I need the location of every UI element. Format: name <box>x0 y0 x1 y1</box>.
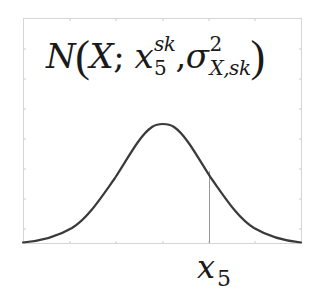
variable-symbol: X <box>89 36 113 76</box>
distribution-title: N(X; xsk5,σ2X,sk) <box>46 26 296 86</box>
open-paren: ( <box>75 32 89 81</box>
mean-superscript: sk <box>154 35 175 53</box>
sigma-superscript: 2 <box>210 35 251 53</box>
comma: , <box>175 36 185 76</box>
gaussian-curve <box>23 124 301 243</box>
close-paren: ) <box>251 32 265 81</box>
x5-label: x5 <box>197 248 231 291</box>
mean-scripts: sk5 <box>154 39 175 79</box>
x5-subscript: 5 <box>217 266 231 291</box>
func-symbol: N <box>46 36 75 76</box>
separator: ; <box>113 36 124 76</box>
sigma-scripts: 2X,sk <box>210 39 251 79</box>
mean-subscript: 5 <box>154 59 175 77</box>
gaussian-figure: N(X; xsk5,σ2X,sk) x5 <box>0 0 315 301</box>
mean-base: x <box>134 36 153 76</box>
sigma-base: σ <box>186 36 209 76</box>
x5-base: x <box>197 248 215 286</box>
sigma-subscript: X,sk <box>210 59 251 77</box>
